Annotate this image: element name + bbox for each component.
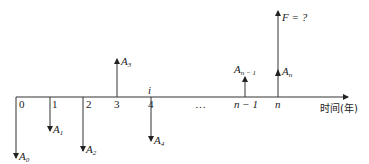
tick-3: 3 <box>114 98 120 110</box>
cash-flow-diagram: 0 1 2 3 4 … n − 1 n i 时间(年) A0 A1 A2 A3 … <box>0 0 369 164</box>
label-a2: A2 <box>85 143 97 157</box>
tick-ellipsis: … <box>195 98 206 110</box>
label-a1: A1 <box>52 123 63 137</box>
axis-label: 时间(年) <box>320 102 358 114</box>
label-a3: A3 <box>120 55 132 69</box>
arrow-an-head <box>275 69 281 76</box>
label-an: An <box>281 65 293 79</box>
label-a-n-minus-1: An − 1 <box>233 63 256 77</box>
label-a4: A4 <box>153 134 165 148</box>
interest-rate-label: i <box>148 84 151 96</box>
tick-2: 2 <box>86 98 92 110</box>
tick-0: 0 <box>19 98 25 110</box>
tick-n: n <box>275 98 281 110</box>
tick-1: 1 <box>52 98 58 110</box>
label-f: F = ? <box>281 11 308 23</box>
label-a0: A0 <box>18 150 30 164</box>
tick-n-minus-1: n − 1 <box>234 98 258 110</box>
